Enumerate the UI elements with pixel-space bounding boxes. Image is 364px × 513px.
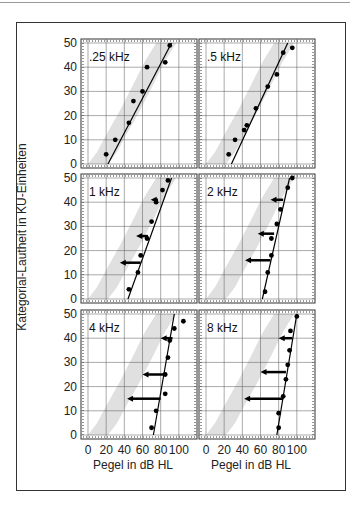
svg-text:40: 40 (236, 443, 250, 457)
svg-text:0: 0 (70, 428, 77, 442)
svg-text:20: 20 (64, 380, 78, 394)
svg-text:80: 80 (272, 443, 286, 457)
svg-text:10: 10 (64, 133, 78, 147)
svg-text:0: 0 (70, 292, 77, 306)
svg-text:20: 20 (64, 109, 78, 123)
svg-text:Pegel in dB HL: Pegel in dB HL (211, 458, 291, 472)
svg-text:20: 20 (217, 443, 231, 457)
svg-text:10: 10 (64, 268, 78, 282)
svg-text:30: 30 (64, 219, 78, 233)
panel-8kHz: 8 kHz (199, 310, 315, 439)
panel-25kHz: .25 kHz (81, 39, 197, 168)
svg-text:0: 0 (70, 157, 77, 171)
svg-text:40: 40 (64, 195, 78, 209)
svg-text:50: 50 (64, 171, 78, 185)
svg-text:0: 0 (85, 443, 92, 457)
svg-text:40: 40 (64, 331, 78, 345)
svg-text:100: 100 (287, 443, 307, 457)
svg-text:60: 60 (136, 443, 150, 457)
panel-5kHz: .5 kHz (199, 39, 315, 168)
svg-text:80: 80 (154, 443, 168, 457)
svg-text:50: 50 (64, 307, 78, 321)
svg-text:60: 60 (254, 443, 268, 457)
panel-4kHz: 4 kHz (81, 310, 197, 439)
svg-text:100: 100 (169, 443, 189, 457)
svg-text:.5 kHz: .5 kHz (207, 50, 241, 64)
svg-text:20: 20 (64, 244, 78, 258)
panel-1kHz: 1 kHz (81, 174, 197, 303)
svg-text:.25 kHz: .25 kHz (89, 50, 130, 64)
svg-text:40: 40 (64, 60, 78, 74)
svg-text:1 kHz: 1 kHz (89, 185, 120, 199)
svg-text:0: 0 (203, 443, 210, 457)
svg-text:2 kHz: 2 kHz (207, 185, 238, 199)
svg-text:30: 30 (64, 84, 78, 98)
loudness-panels: .25 kHz01020304050.5 kHz1 kHz01020304050… (0, 0, 364, 513)
svg-text:20: 20 (99, 443, 113, 457)
panel-2kHz: 2 kHz (199, 174, 315, 303)
svg-text:30: 30 (64, 355, 78, 369)
svg-text:10: 10 (64, 404, 78, 418)
svg-text:40: 40 (118, 443, 132, 457)
svg-text:8 kHz: 8 kHz (207, 321, 238, 335)
svg-text:50: 50 (64, 36, 78, 50)
svg-text:Pegel in dB HL: Pegel in dB HL (93, 458, 173, 472)
svg-text:4 kHz: 4 kHz (89, 321, 120, 335)
